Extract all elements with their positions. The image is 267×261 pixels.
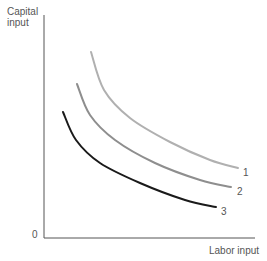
y-axis-label: Capital input (7, 6, 38, 28)
chart-canvas (0, 0, 267, 261)
curve-3-label: 3 (221, 206, 227, 217)
y-axis-label-line2: input (7, 17, 38, 28)
isoquant-curve-3 (63, 112, 216, 207)
origin-label: 0 (32, 229, 38, 240)
isoquant-chart: Capital input 0 Labor input 1 2 3 (0, 0, 267, 261)
curve-1-label: 1 (243, 167, 249, 178)
y-axis-label-line1: Capital (7, 6, 38, 17)
x-axis-label: Labor input (209, 245, 259, 256)
isoquant-curve-2 (77, 84, 231, 187)
isoquant-curve-1 (91, 52, 238, 168)
curve-2-label: 2 (237, 186, 243, 197)
